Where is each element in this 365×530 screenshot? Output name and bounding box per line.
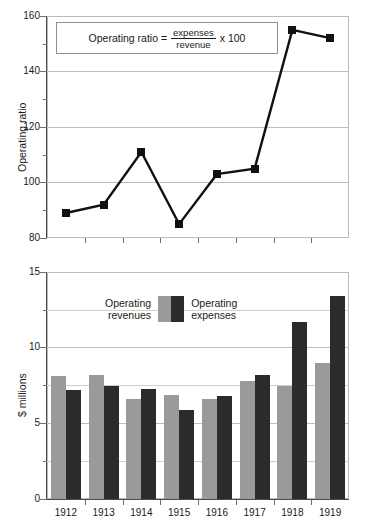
legend-revenues-line1: Operating	[105, 297, 151, 309]
bar-1915-expenses	[179, 410, 194, 499]
bottom-chart-y-axis-title: $ millions	[16, 373, 28, 417]
bottom-x-tick-1	[85, 500, 86, 505]
bottom-y-major-tick-15	[40, 272, 47, 273]
top-chart-plot-area: Operating ratio = expenses revenue x 100	[47, 16, 349, 238]
bottom-x-tick-3	[160, 500, 161, 505]
bottom-y-tick-5: 5	[10, 418, 40, 428]
bar-1913-expenses	[104, 386, 119, 500]
data-point-1912	[62, 209, 70, 217]
bar-1914-revenues	[126, 399, 141, 499]
x-tick-label-1912: 1912	[47, 508, 85, 518]
bar-1912-revenues	[51, 376, 66, 499]
bottom-y-tick-0: 0	[10, 494, 40, 504]
legend-swatch-revenues	[158, 296, 171, 322]
bar-1916-revenues	[202, 399, 217, 499]
top-y-tick-80: 80	[10, 233, 40, 243]
top-x-tick-2	[123, 238, 124, 243]
data-point-1918	[288, 26, 296, 34]
bottom-y-tick-15: 15	[10, 267, 40, 277]
data-point-1915	[175, 220, 183, 228]
bar-1916-expenses	[217, 396, 232, 499]
legend-expenses-line1: Operating	[191, 297, 237, 309]
bottom-y-major-tick-0	[40, 499, 47, 500]
bar-1912-expenses	[66, 390, 81, 499]
top-y-tick-120: 120	[10, 122, 40, 132]
bar-1915-revenues	[164, 395, 179, 499]
x-tick-label-1917: 1917	[236, 508, 274, 518]
legend-label-operating-revenues: Operating revenues	[105, 297, 151, 321]
figure-two-panel-chart: Operating ratio 160 140 120 100 80	[0, 0, 365, 530]
operating-ratio-formula-box: Operating ratio = expenses revenue x 100	[56, 22, 278, 54]
bottom-x-tick-7	[311, 500, 312, 505]
formula-lead-text: Operating ratio =	[89, 32, 168, 44]
top-y-major-tick-100	[40, 182, 47, 183]
bar-1919-expenses	[330, 296, 345, 499]
bottom-x-tick-6	[274, 500, 275, 505]
bar-1919-revenues	[315, 363, 330, 499]
operating-revenues-expenses-bar-chart: $ millions 15 10 5 0 Operating revenues	[0, 262, 365, 530]
data-point-1919	[326, 34, 334, 42]
bar-1914-expenses	[141, 389, 156, 499]
formula-denominator: revenue	[174, 39, 212, 50]
top-y-major-tick-160	[40, 16, 47, 17]
legend-expenses-line2: expenses	[191, 309, 237, 321]
top-x-tick-3	[160, 238, 161, 243]
formula-multiplier: x 100	[220, 32, 246, 44]
data-point-1916	[213, 170, 221, 178]
bar-1913-revenues	[89, 375, 104, 499]
bottom-x-tick-5	[236, 500, 237, 505]
bottom-chart-plot-area: Operating revenues Operating expenses	[47, 272, 349, 499]
top-x-tick-5	[236, 238, 237, 243]
bar-1917-expenses	[255, 375, 270, 499]
top-x-tick-1	[85, 238, 86, 243]
legend-revenues-line2: revenues	[105, 309, 151, 321]
bottom-y-tick-10: 10	[10, 342, 40, 352]
bar-1917-revenues	[240, 381, 255, 499]
legend-label-operating-expenses: Operating expenses	[191, 297, 237, 321]
top-y-major-tick-140	[40, 71, 47, 72]
legend-swatch	[158, 296, 184, 322]
bottom-x-tick-2	[123, 500, 124, 505]
bottom-y-major-tick-10	[40, 347, 47, 348]
top-chart-y-axis-title: Operating ratio	[16, 103, 28, 172]
x-tick-label-1915: 1915	[160, 508, 198, 518]
data-point-1914	[137, 148, 145, 156]
top-x-tick-6	[274, 238, 275, 243]
top-y-major-tick-80	[40, 238, 47, 239]
data-point-1913	[100, 201, 108, 209]
operating-ratio-line-chart: Operating ratio 160 140 120 100 80	[0, 0, 365, 258]
top-x-tick-7	[311, 238, 312, 243]
x-tick-label-1919: 1919	[311, 508, 349, 518]
bar-1918-revenues	[277, 386, 292, 500]
top-y-tick-160: 160	[10, 11, 40, 21]
top-y-tick-140: 140	[10, 66, 40, 76]
bar-chart-legend: Operating revenues Operating expenses	[105, 296, 237, 322]
bottom-x-tick-4	[198, 500, 199, 505]
x-tick-label-1916: 1916	[198, 508, 236, 518]
top-x-tick-4	[198, 238, 199, 243]
legend-swatch-expenses	[171, 296, 184, 322]
x-tick-label-1913: 1913	[85, 508, 123, 518]
bottom-y-major-tick-5	[40, 423, 47, 424]
bar-1918-expenses	[292, 322, 307, 499]
x-tick-label-1918: 1918	[274, 508, 312, 518]
top-y-major-tick-120	[40, 127, 47, 128]
top-y-tick-100: 100	[10, 177, 40, 187]
formula-numerator: expenses	[171, 27, 216, 39]
formula-fraction: expenses revenue	[171, 27, 216, 50]
x-tick-label-1914: 1914	[123, 508, 161, 518]
data-point-1917	[251, 165, 259, 173]
